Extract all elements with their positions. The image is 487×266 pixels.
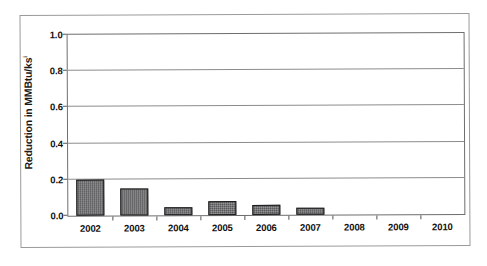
bar-chart: Reduction in MMBtu/ksi 0.00.20.40.60.81.… (19, 13, 470, 248)
y-axis-title-superscript: i (22, 56, 28, 57)
x-axis-tick-label-2007: 2007 (300, 222, 321, 233)
x-axis-tick-label-2009: 2009 (388, 221, 409, 232)
x-axis-tick-label-2010: 2010 (432, 221, 453, 232)
y-axis-tick-labels: 0.00.20.40.60.81.0 (33, 34, 64, 217)
bar-slot (244, 34, 289, 215)
bar-slot (288, 34, 333, 215)
bar-2005[interactable] (208, 201, 236, 215)
x-axis-tick-mark (420, 215, 421, 219)
y-axis-tick-mark (63, 106, 67, 107)
y-axis-tick-mark (63, 34, 67, 35)
y-axis-tick-label: 0.2 (37, 174, 63, 185)
x-axis-tick-mark (200, 216, 201, 220)
bar-2003[interactable] (120, 188, 148, 215)
bar-2002[interactable] (76, 179, 104, 215)
figure-root: Reduction in MMBtu/ksi 0.00.20.40.60.81.… (0, 0, 487, 266)
y-axis-tick-label: 0.4 (37, 138, 63, 149)
x-axis-tick-mark (112, 217, 113, 221)
bar-slot (112, 34, 157, 215)
y-axis-tick-label: 0.6 (37, 102, 63, 113)
y-axis-tick-label: 0.0 (37, 210, 63, 221)
bars-layer (68, 33, 465, 216)
x-axis-tick-label-2005: 2005 (212, 222, 233, 233)
bar-slot (376, 33, 421, 214)
y-axis-tick-mark (63, 215, 67, 216)
bar-2007[interactable] (296, 207, 324, 214)
x-axis-tick-mark (376, 215, 377, 219)
bar-slot (156, 34, 201, 215)
bar-slot (332, 33, 377, 214)
bar-2006[interactable] (252, 205, 280, 215)
y-axis-tick-mark (63, 142, 67, 143)
x-axis-tick-mark (332, 216, 333, 220)
x-axis-tick-label-2002: 2002 (80, 223, 101, 234)
y-axis-tick-mark (63, 179, 67, 180)
x-axis-tick-label-2006: 2006 (256, 222, 277, 233)
x-axis-tick-mark (244, 216, 245, 220)
x-axis-tick-mark (156, 216, 157, 220)
y-axis-tick-label: 0.8 (37, 65, 63, 76)
bar-2004[interactable] (164, 207, 192, 215)
bar-slot (200, 34, 245, 215)
bar-slot (420, 33, 465, 214)
x-axis-tick-mark (288, 216, 289, 220)
bar-slot (68, 35, 113, 216)
x-axis-tick-label-2003: 2003 (124, 222, 145, 233)
x-axis-tick-label-2004: 2004 (168, 222, 189, 233)
y-axis-tick-mark (63, 70, 67, 71)
x-axis-tick-label-2008: 2008 (344, 221, 365, 232)
y-axis-tick-label: 1.0 (37, 29, 63, 40)
x-axis-tick-labels: 200220032004200520062007200820092010 (68, 221, 464, 239)
